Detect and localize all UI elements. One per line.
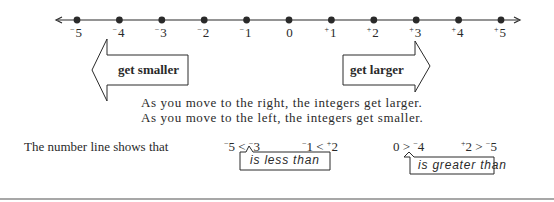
tick-label: +5 (494, 25, 506, 41)
tick-label: −1 (240, 25, 252, 41)
number-line-point (498, 17, 505, 24)
tick-digit: 0 (286, 25, 293, 40)
tick-sign: − (197, 25, 202, 34)
tick-label: −2 (197, 25, 209, 41)
number-line-point (116, 17, 123, 24)
operand: 0 (393, 139, 400, 154)
get-larger-label: get larger (350, 62, 404, 78)
operator: < (238, 139, 245, 154)
tick-sign: − (112, 25, 117, 34)
comparisons-lead: The number line shows that (24, 139, 168, 155)
number-line-point (158, 17, 165, 24)
operand: 5 (229, 139, 236, 154)
tick-digit: 4 (118, 25, 125, 40)
operand: 4 (418, 139, 425, 154)
tick-sign: + (324, 25, 329, 34)
number-line-point (370, 17, 377, 24)
tick-label: +1 (324, 25, 336, 41)
number-line-point (413, 17, 420, 24)
tick-digit: 5 (500, 25, 507, 40)
tick-label: +4 (452, 25, 464, 41)
operand: 5 (490, 139, 497, 154)
tick-label: −4 (112, 25, 124, 41)
explanation-line-2: As you move to the left, the integers ge… (141, 110, 423, 126)
tick-label: −3 (155, 25, 167, 41)
comparison-3: 0 > −4 (393, 139, 424, 155)
tick-sign: − (155, 25, 160, 34)
tick-digit: 2 (203, 25, 210, 40)
comparison-4: +2 > −5 (461, 139, 497, 155)
number-line-point (455, 17, 462, 24)
tick-digit: 3 (160, 25, 167, 40)
number-line-point (201, 17, 208, 24)
explanation-line-1: As you move to the right, the integers g… (141, 95, 422, 111)
tick-sign: + (494, 25, 499, 34)
tick-sign: + (452, 25, 457, 34)
number-line-point (286, 17, 293, 24)
number-line-figure: −5−4−3−2−10+1+2+3+4+5 get smaller get la… (0, 0, 554, 202)
operator: > (403, 139, 410, 154)
tick-digit: 4 (457, 25, 464, 40)
operand: 2 (466, 139, 473, 154)
tick-sign: + (409, 25, 414, 34)
operand: 3 (253, 139, 260, 154)
tick-digit: 3 (415, 25, 422, 40)
number-line-point (243, 17, 250, 24)
operator: < (316, 139, 323, 154)
tick-digit: 5 (76, 25, 83, 40)
get-smaller-label: get smaller (118, 62, 179, 78)
tick-sign: + (367, 25, 372, 34)
tick-digit: 1 (330, 25, 337, 40)
number-line-point (328, 17, 335, 24)
tick-label: −5 (70, 25, 82, 41)
tick-label: +2 (367, 25, 379, 41)
operator: > (475, 139, 482, 154)
operand: 1 (307, 139, 314, 154)
tick-sign: − (240, 25, 245, 34)
tick-digit: 2 (372, 25, 379, 40)
less-than-callout-label: is less than (250, 153, 320, 167)
tick-label: 0 (285, 25, 293, 41)
tick-digit: 1 (245, 25, 252, 40)
tick-label: +3 (409, 25, 421, 41)
operand: 2 (331, 139, 338, 154)
greater-than-callout-label: is greater than (418, 158, 507, 172)
tick-sign: − (70, 25, 75, 34)
number-line-point (74, 17, 81, 24)
